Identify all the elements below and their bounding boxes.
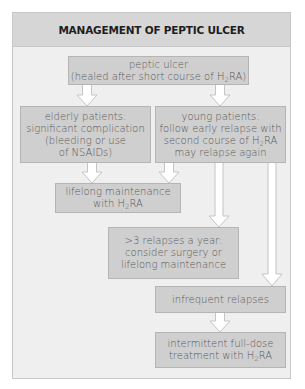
arrow-young-to-infrequent [260, 162, 284, 287]
node-elderly-text: elderly patients: significant complicati… [26, 111, 145, 159]
node-frequent-relapses: >3 relapses a year: consider surgery or … [108, 227, 239, 279]
node-frequent-text: >3 relapses a year: consider surgery or … [121, 235, 226, 271]
node-young-line4: may relapse again [160, 147, 282, 159]
node-peptic-ulcer-line2: (healed after short course of H2RA) [71, 71, 246, 83]
node-lifelong-line1: lifelong maintenance [65, 186, 170, 198]
node-lifelong-maintenance: lifelong maintenance with H2RA [55, 183, 181, 213]
node-lifelong-line2: with H2RA [65, 198, 170, 210]
node-young-line3: second course of H2RA [160, 135, 282, 147]
arrow-to-elderly [75, 84, 99, 107]
node-infrequent-text: infrequent relapses [172, 294, 269, 306]
diagram-title: MANAGEMENT OF PEPTIC ULCER [58, 24, 244, 36]
arrow-elderly-to-lifelong [80, 162, 104, 184]
node-young-patients: young patients: follow early relapse wit… [155, 106, 286, 163]
arrow-infrequent-to-intermittent [208, 312, 232, 333]
node-peptic-ulcer: peptic ulcer (healed after short course … [68, 56, 249, 85]
node-peptic-ulcer-line1: peptic ulcer [71, 59, 246, 71]
title-band: MANAGEMENT OF PEPTIC ULCER [12, 12, 291, 47]
node-intermittent-line2: treatment with H2RA [168, 350, 274, 362]
arrow-young-to-frequent [207, 162, 231, 228]
arrow-to-young [208, 84, 232, 107]
arrow-young-to-lifelong [157, 162, 181, 184]
node-intermittent-treatment: intermittent full-dose treatment with H2… [155, 332, 286, 368]
node-young-line1: young patients: [160, 111, 282, 123]
node-intermittent-line1: intermittent full-dose [168, 338, 274, 350]
node-elderly-patients: elderly patients: significant complicati… [20, 106, 151, 163]
node-infrequent-relapses: infrequent relapses [155, 286, 286, 313]
node-young-line2: follow early relapse with [160, 123, 282, 135]
